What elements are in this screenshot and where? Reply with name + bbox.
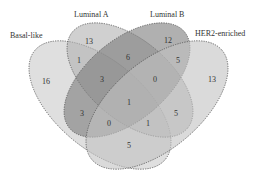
count-her2-only: 13 xyxy=(208,75,216,84)
count-luminal-a-luminal-b: 6 xyxy=(126,53,130,62)
label-basal-like: Basal-like xyxy=(10,31,43,40)
count-basal-luminal-b-her2: 0 xyxy=(107,119,111,128)
count-luminal-b-only: 12 xyxy=(164,36,172,45)
label-her2-enriched: HER2-enriched xyxy=(195,29,245,38)
label-luminal-a: Luminal A xyxy=(74,10,109,19)
venn-diagram: Basal-like Luminal A Luminal B HER2-enri… xyxy=(0,0,257,173)
count-all-four: 1 xyxy=(127,98,131,107)
count-luminal-a-only: 13 xyxy=(85,37,93,46)
label-luminal-b: Luminal B xyxy=(150,10,184,19)
count-basal-luminal-a-her2: 1 xyxy=(146,119,150,128)
count-basal-luminal-b: 3 xyxy=(80,109,84,118)
count-basal-only: 16 xyxy=(42,77,50,86)
count-luminal-a-luminal-b-her2: 0 xyxy=(153,75,157,84)
count-luminal-b-her2: 5 xyxy=(176,56,180,65)
count-basal-her2: 5 xyxy=(127,141,131,150)
count-luminal-a-her2: 5 xyxy=(174,109,178,118)
count-basal-luminal-a: 1 xyxy=(77,56,81,65)
count-basal-luminal-a-luminal-b: 3 xyxy=(100,75,104,84)
